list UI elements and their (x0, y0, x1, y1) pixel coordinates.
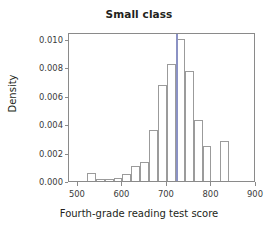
histogram-bar (114, 178, 123, 181)
histogram-bar (131, 166, 140, 181)
y-tick-label: 0.002 (21, 149, 63, 159)
x-tick-mark (121, 182, 122, 186)
y-tick-mark (65, 68, 69, 69)
x-tick-label: 800 (190, 189, 230, 199)
x-tick-mark (166, 182, 167, 186)
histogram-bar (167, 64, 176, 181)
y-tick-mark (65, 125, 69, 126)
histogram-bar (220, 141, 229, 181)
histogram-bar (158, 85, 167, 181)
bars-container (69, 34, 254, 181)
x-tick-label: 900 (235, 189, 275, 199)
y-tick-label: 0.008 (21, 63, 63, 73)
y-tick-mark (65, 182, 69, 183)
histogram-bar (140, 162, 149, 181)
y-axis-label: Density (7, 44, 18, 144)
histogram-bar (149, 130, 158, 181)
x-tick-label: 700 (146, 189, 186, 199)
x-tick-mark (77, 182, 78, 186)
x-tick-label: 500 (57, 189, 97, 199)
y-tick-mark (65, 40, 69, 41)
y-tick-label: 0.000 (21, 177, 63, 187)
histogram-bar (194, 120, 203, 181)
mean-reference-line (176, 34, 178, 181)
histogram-bar (203, 146, 212, 181)
x-tick-mark (255, 182, 256, 186)
histogram-bar (87, 173, 96, 181)
y-tick-label: 0.006 (21, 92, 63, 102)
histogram-bar (185, 71, 194, 181)
y-tick-mark (65, 154, 69, 155)
x-axis-label: Fourth-grade reading test score (0, 208, 278, 219)
x-tick-mark (210, 182, 211, 186)
x-tick-label: 600 (101, 189, 141, 199)
chart-title: Small class (0, 8, 278, 20)
histogram-figure: Small class Fourth-grade reading test sc… (0, 0, 278, 232)
plot-area (68, 33, 255, 182)
histogram-bar (105, 179, 114, 181)
histogram-bar (122, 174, 131, 181)
histogram-bar (96, 179, 105, 181)
y-tick-label: 0.004 (21, 120, 63, 130)
y-tick-mark (65, 97, 69, 98)
y-tick-label: 0.010 (21, 35, 63, 45)
